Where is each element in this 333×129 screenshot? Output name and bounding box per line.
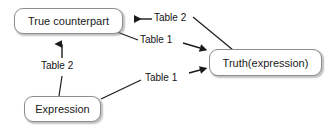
node-expression[interactable]: Expression <box>24 96 101 122</box>
edge-label-table2-truth-to-counterpart: Table 2 <box>154 13 186 23</box>
node-truth-expression-label: Truth(expression) <box>223 57 309 69</box>
node-true-counterpart[interactable]: True counterpart <box>14 8 123 34</box>
node-truth-expression[interactable]: Truth(expression) <box>209 49 322 76</box>
edge-label-table1-expression-to-truth: Table 1 <box>145 73 177 83</box>
node-true-counterpart-label: True counterpart <box>28 15 109 27</box>
node-expression-label: Expression <box>35 103 89 115</box>
diagram-canvas: True counterpart Truth(expression) Expre… <box>0 0 333 129</box>
edge-label-table2-expression-to-counterpart: Table 2 <box>41 61 73 71</box>
edge-label-table1-counterpart-to-truth: Table 1 <box>140 35 172 45</box>
